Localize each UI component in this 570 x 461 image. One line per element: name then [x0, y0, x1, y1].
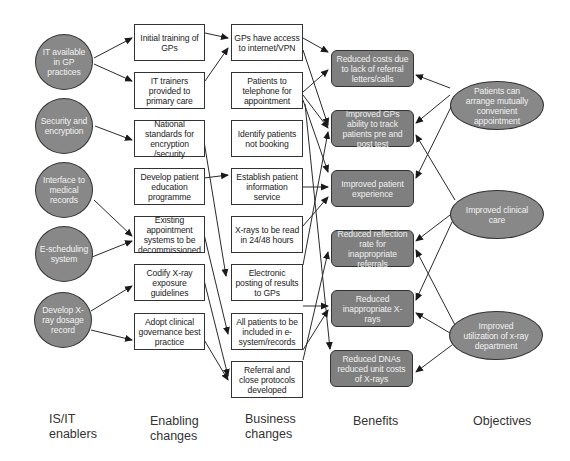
- enabler-node: Develop X-ray dosage record: [34, 292, 92, 348]
- benefit-box: Reduced reflection rate for inappropriat…: [331, 230, 414, 267]
- business-change-box: Identify patients not booking: [231, 120, 303, 157]
- enabler-node: Security and encryption: [35, 98, 93, 154]
- column-label-objectives: Objectives: [473, 414, 531, 429]
- business-change-label: Referral and close protocols developed: [234, 365, 300, 395]
- business-change-label: X-rays to be read in 24/48 hours: [234, 225, 300, 245]
- business-change-box: Establish patient information service: [231, 168, 303, 205]
- enabler-label: Security and encryption: [39, 116, 89, 136]
- column-label-line: IS/IT: [49, 412, 97, 427]
- benefit-box: Improved GPs ability to track patients p…: [331, 110, 414, 147]
- column-label-line: Benefits: [353, 414, 398, 429]
- enabler-node: Interface to medical records: [35, 162, 93, 218]
- enabling-change-label: Develop patient education programme: [137, 172, 202, 202]
- benefit-label: Reduced costs due to lack of referral le…: [335, 54, 410, 84]
- column-label-line: Enabling: [150, 414, 199, 429]
- benefit-box: Improved patient experience: [331, 170, 414, 207]
- business-change-box: All patients to be included in e-system/…: [231, 313, 303, 350]
- enabler-label: Interface to medical records: [39, 175, 89, 205]
- column-label-enabling-changes: Enabling changes: [150, 414, 199, 444]
- benefit-label: Reduced inappropriate X-rays: [335, 294, 410, 324]
- enabling-change-box: Existing appointment systems to be decom…: [134, 216, 205, 253]
- benefit-label: Improved patient experience: [335, 179, 410, 199]
- enabling-change-box: Codify X-ray exposure guidelines: [134, 264, 205, 301]
- benefit-box: Reduced costs due to lack of referral le…: [331, 50, 414, 87]
- enabling-change-label: Adopt clinical governance best practice: [137, 317, 202, 347]
- enabler-label: IT available in GP practices: [39, 47, 89, 77]
- enabling-change-label: Initial training of GPs: [137, 33, 202, 53]
- enabler-node: E-scheduling system: [35, 226, 93, 282]
- enabler-node: IT available in GP practices: [35, 34, 93, 90]
- objective-node: Improved clinical care: [450, 190, 544, 239]
- business-change-label: Electronic posting of results to GPs: [234, 268, 300, 298]
- benefit-box: Reduced inappropriate X-rays: [331, 290, 414, 327]
- business-change-box: Patients to telephone for appointment: [231, 72, 303, 109]
- benefit-label: Improved GPs ability to track patients p…: [335, 109, 410, 149]
- business-change-label: Identify patients not booking: [234, 129, 300, 149]
- enabling-change-label: IT trainers provided to primary care: [137, 76, 202, 106]
- objective-label: Patients can arrange mutually convenient…: [459, 86, 535, 126]
- column-label-line: Business: [245, 412, 296, 427]
- objective-label: Improved clinical care: [465, 205, 529, 225]
- enabling-change-box: Develop patient education programme: [134, 168, 205, 205]
- enabling-change-box: Initial training of GPs: [134, 24, 205, 61]
- enabling-change-box: Adopt clinical governance best practice: [134, 313, 205, 350]
- enabler-label: E-scheduling system: [39, 244, 89, 264]
- column-label-business-changes: Business changes: [245, 412, 296, 442]
- enabling-change-box: National standards for encryption /secur…: [134, 120, 205, 157]
- business-change-box: GPs have access to internet/VPN: [231, 24, 303, 61]
- column-label-line: changes: [245, 427, 296, 442]
- column-label-line: changes: [150, 429, 199, 444]
- objective-node: Improved utilization of x-ray department: [449, 311, 543, 360]
- column-label-line: enablers: [49, 427, 97, 442]
- column-label-benefits: Benefits: [353, 414, 398, 429]
- column-label-line: Objectives: [473, 414, 531, 429]
- enabling-change-label: Existing appointment systems to be decom…: [137, 215, 202, 255]
- business-change-label: Establish patient information service: [234, 172, 300, 202]
- enabling-change-label: Codify X-ray exposure guidelines: [137, 268, 202, 298]
- enabling-change-label: National standards for encryption /secur…: [137, 119, 202, 159]
- business-change-label: GPs have access to internet/VPN: [234, 33, 300, 53]
- objective-node: Patients can arrange mutually convenient…: [450, 81, 544, 130]
- enabler-label: Develop X-ray dosage record: [38, 305, 88, 335]
- benefits-dependency-network: IT available in GP practices Security an…: [0, 0, 570, 461]
- business-change-box: Electronic posting of results to GPs: [231, 264, 303, 301]
- column-label-enablers: IS/IT enablers: [49, 412, 97, 442]
- benefit-label: Reduced DNAs reduced unit costs of X-ray…: [334, 354, 409, 384]
- objective-label: Improved utilization of x-ray department: [462, 321, 530, 351]
- business-change-label: Patients to telephone for appointment: [234, 76, 300, 106]
- business-change-box: X-rays to be read in 24/48 hours: [231, 216, 303, 253]
- business-change-box: Referral and close protocols developed: [231, 361, 303, 398]
- business-change-label: All patients to be included in e-system/…: [234, 317, 300, 347]
- benefit-label: Reduced reflection rate for inappropriat…: [335, 229, 410, 269]
- enabling-change-box: IT trainers provided to primary care: [134, 72, 205, 109]
- benefit-box: Reduced DNAs reduced unit costs of X-ray…: [330, 350, 413, 387]
